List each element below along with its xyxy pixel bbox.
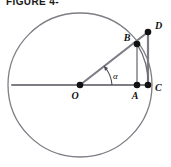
- label-point-b: B: [123, 32, 131, 43]
- figure-container: FIGURE 4- O A C B D α: [0, 0, 171, 167]
- point-c: [145, 82, 152, 89]
- label-point-o: O: [71, 90, 78, 101]
- label-point-c: C: [155, 82, 162, 93]
- point-o: [77, 82, 84, 89]
- geometry-diagram: O A C B D α: [0, 0, 171, 167]
- label-point-a: A: [131, 90, 139, 101]
- label-angle-alpha: α: [113, 71, 118, 81]
- point-d: [145, 29, 152, 36]
- label-point-d: D: [154, 20, 162, 31]
- point-b: [134, 41, 141, 48]
- point-a: [134, 82, 141, 89]
